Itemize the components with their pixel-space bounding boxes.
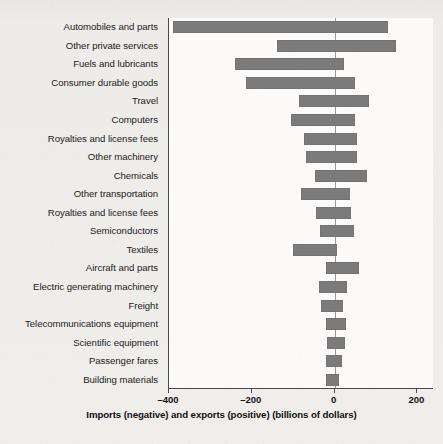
category-label: Semiconductors bbox=[90, 226, 158, 236]
bar bbox=[306, 151, 356, 163]
x-tick bbox=[334, 389, 335, 393]
category-label: Royalties and license fees bbox=[48, 134, 158, 144]
category-label: Consumer durable goods bbox=[51, 78, 158, 88]
bar bbox=[319, 281, 347, 293]
category-label: Royalties and license fees bbox=[48, 208, 158, 218]
category-label: Computers bbox=[112, 115, 158, 125]
bar bbox=[173, 21, 388, 33]
x-tick-label: 200 bbox=[409, 394, 425, 405]
bar bbox=[326, 262, 359, 274]
bar bbox=[321, 300, 343, 312]
category-label: Other private services bbox=[66, 41, 158, 51]
category-label: Building materials bbox=[83, 375, 158, 385]
x-tick bbox=[168, 389, 169, 393]
plot-area bbox=[168, 18, 433, 389]
x-tick-label: –400 bbox=[157, 394, 178, 405]
category-label: Fuels and lubricants bbox=[73, 59, 158, 69]
x-tick bbox=[416, 389, 417, 393]
bar bbox=[277, 40, 396, 52]
bar bbox=[326, 374, 338, 386]
bar bbox=[299, 95, 368, 107]
category-label: Automobiles and parts bbox=[64, 22, 158, 32]
bar bbox=[320, 225, 354, 237]
bar bbox=[326, 355, 342, 367]
category-label: Chemicals bbox=[114, 171, 158, 181]
category-label: Scientific equipment bbox=[73, 338, 158, 348]
category-label-column: Automobiles and partsOther private servi… bbox=[0, 18, 163, 388]
category-label: Textiles bbox=[126, 245, 158, 255]
bar bbox=[246, 77, 356, 89]
category-label: Telecommunications equipment bbox=[25, 319, 158, 329]
bar bbox=[304, 133, 358, 145]
bar bbox=[301, 188, 351, 200]
category-label: Passenger fares bbox=[89, 356, 158, 366]
bar bbox=[235, 58, 343, 70]
category-label: Other transportation bbox=[74, 189, 158, 199]
bar bbox=[315, 170, 367, 182]
trade-balance-chart: Automobiles and partsOther private servi… bbox=[0, 0, 443, 444]
x-tick bbox=[251, 389, 252, 393]
bar bbox=[291, 114, 355, 126]
bar bbox=[327, 337, 345, 349]
bar bbox=[316, 207, 351, 219]
bar bbox=[326, 318, 346, 330]
category-label: Aircraft and parts bbox=[86, 263, 158, 273]
x-tick-label: 0 bbox=[331, 394, 336, 405]
category-label: Electric generating machinery bbox=[33, 282, 158, 292]
x-axis-title: Imports (negative) and exports (positive… bbox=[0, 409, 443, 420]
category-label: Freight bbox=[128, 301, 158, 311]
x-tick-label: –200 bbox=[240, 394, 261, 405]
zero-reference-line bbox=[335, 18, 336, 388]
category-label: Travel bbox=[132, 96, 158, 106]
bar bbox=[293, 244, 336, 256]
category-label: Other machinery bbox=[88, 152, 158, 162]
